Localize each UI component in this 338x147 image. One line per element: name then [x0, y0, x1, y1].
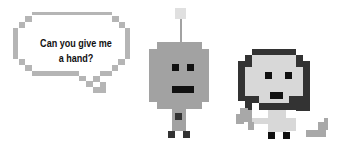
girl — [236, 49, 328, 139]
speech-line-1: Can you give me — [35, 36, 118, 51]
pixel-scene — [0, 0, 338, 147]
speech-bubble-text: Can you give me a hand? — [35, 36, 118, 66]
robot — [149, 8, 209, 138]
speech-line-2: a hand? — [35, 51, 118, 66]
illustration: Can you give me a hand? — [0, 0, 338, 147]
